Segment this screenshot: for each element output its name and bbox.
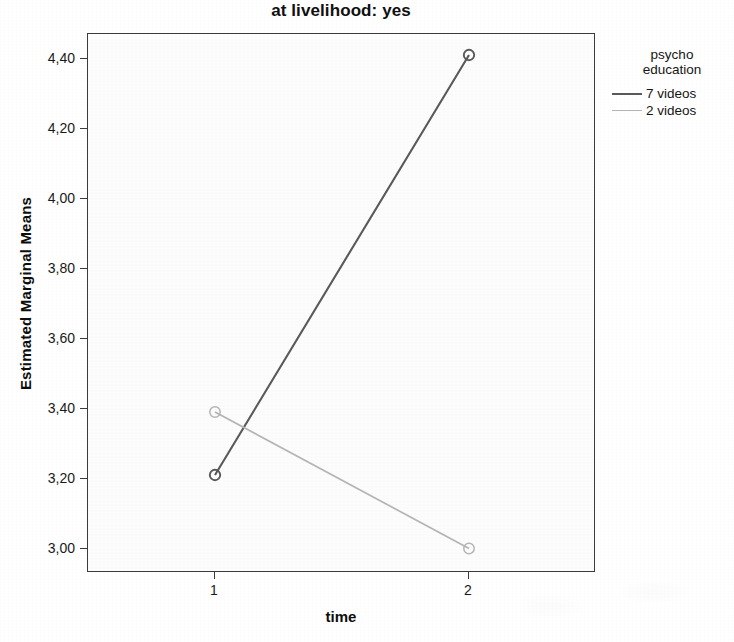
y-tick-label: 3,80 — [13, 260, 75, 276]
series-2 — [210, 407, 474, 554]
x-tick-mark — [214, 572, 215, 579]
x-tick-mark — [468, 572, 469, 579]
y-tick-mark — [80, 408, 87, 409]
legend: psycho education 7 videos2 videos — [612, 47, 732, 120]
legend-line-swatch — [612, 110, 642, 111]
plot-area — [87, 33, 595, 572]
y-tick-mark — [80, 198, 87, 199]
paper-speck — [620, 585, 690, 599]
y-tick-label: 3,60 — [13, 330, 75, 346]
legend-line-swatch — [612, 93, 642, 95]
y-tick-mark — [80, 58, 87, 59]
series-layer — [88, 34, 595, 572]
y-tick-label: 3,40 — [13, 400, 75, 416]
legend-label: 2 videos — [646, 103, 696, 118]
legend-label: 7 videos — [646, 86, 696, 101]
x-tick-label: 2 — [448, 582, 488, 598]
x-tick-label: 1 — [194, 582, 234, 598]
y-tick-label: 3,20 — [13, 470, 75, 486]
y-tick-mark — [80, 128, 87, 129]
y-tick-label: 4,20 — [13, 120, 75, 136]
y-tick-mark — [80, 338, 87, 339]
y-tick-label: 4,00 — [13, 190, 75, 206]
legend-entry-2: 2 videos — [612, 103, 732, 118]
y-tick-label: 4,40 — [13, 50, 75, 66]
y-tick-mark — [80, 268, 87, 269]
series-line — [215, 412, 469, 549]
legend-entry-1: 7 videos — [612, 86, 732, 101]
chart-page: at livelihood: yes Estimated Marginal Me… — [0, 0, 734, 642]
chart-title: at livelihood: yes — [87, 1, 595, 21]
x-axis-title: time — [87, 608, 595, 625]
series-1 — [210, 50, 474, 480]
y-tick-mark — [80, 478, 87, 479]
y-tick-mark — [80, 548, 87, 549]
series-line — [215, 55, 469, 475]
legend-entries: 7 videos2 videos — [612, 86, 732, 118]
legend-title: psycho education — [612, 47, 732, 77]
y-tick-label: 3,00 — [13, 540, 75, 556]
